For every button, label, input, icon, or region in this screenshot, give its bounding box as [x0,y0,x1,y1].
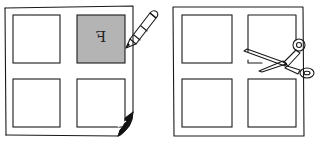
left-panel-bottom-right [77,79,125,127]
right-panel-bottom-left [182,79,232,127]
left-sheet: F [5,6,158,136]
right-panel-bottom-right [248,79,296,127]
right-panel-top-left [182,15,232,63]
right-panel-top-right [248,15,296,52]
mirrored-letter: F [96,28,106,46]
left-panel-bottom-left [13,79,60,127]
instruction-illustration: F [0,0,319,143]
right-sheet [173,7,314,136]
pencil-icon [126,11,158,48]
left-panel-top-left [13,15,60,63]
